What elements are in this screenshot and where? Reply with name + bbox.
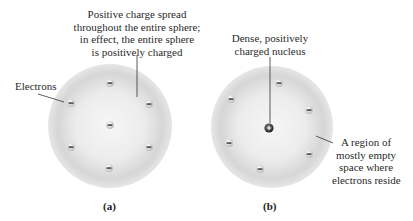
label-line: electrons reside: [332, 174, 400, 187]
label-line: mostly empty: [332, 149, 400, 162]
sphere-a: [38, 55, 172, 188]
label-line: Positive charge spread: [47, 8, 227, 21]
label-line: in effect, the entire sphere: [47, 33, 227, 46]
electron-icon: [67, 143, 75, 151]
electron-icon: [305, 106, 313, 114]
electron-icon: [145, 143, 153, 151]
label-line: A region of: [332, 136, 400, 149]
electron-icon: [105, 164, 113, 172]
label-line: charged nucleus: [225, 45, 315, 58]
label-line: Dense, positively: [225, 32, 315, 45]
electron-icon: [106, 121, 114, 129]
label-electrons: Electrons: [15, 80, 57, 93]
electron-icon: [225, 139, 233, 147]
label-line: space where: [332, 161, 400, 174]
label-nucleus: Dense, positively charged nucleus: [225, 32, 315, 57]
electron-icon: [275, 79, 283, 87]
electron-icon: [227, 95, 235, 103]
caption-a: (a): [103, 200, 116, 212]
caption-b: (b): [263, 200, 276, 212]
label-line: is positively charged: [47, 46, 227, 59]
electron-icon: [256, 165, 264, 173]
electron-icon: [67, 99, 75, 107]
label-line: throughout the entire sphere;: [47, 21, 227, 34]
electron-icon: [305, 150, 313, 158]
electron-icon: [106, 79, 114, 87]
label-positive-charge: Positive charge spread throughout the en…: [47, 8, 227, 58]
nucleus-icon: [264, 123, 273, 132]
atom-models-diagram: Positive charge spread throughout the en…: [0, 0, 413, 221]
electron-icon: [145, 100, 153, 108]
label-empty-space: A region of mostly empty space where ele…: [332, 136, 400, 186]
sphere-b: [211, 57, 333, 188]
